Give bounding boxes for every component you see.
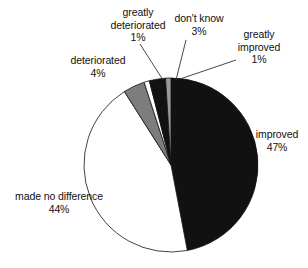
slice-label-deteriorated-line1: deteriorated <box>55 54 141 67</box>
slice-label-greatly-improved-line1: greatly <box>222 28 296 41</box>
slice-label-improved-percent: 47% <box>248 141 306 154</box>
slice-label-greatly-deteriorated-line2: deteriorated <box>100 19 176 32</box>
leader-line-greatly-deteriorated <box>140 44 163 80</box>
slice-label-dont-know-line1: don't know <box>166 12 232 25</box>
pie-chart: greatly deteriorated 1% don't know 3% gr… <box>0 0 308 268</box>
slice-label-made-no-difference: made no difference 44% <box>4 190 114 215</box>
slice-label-deteriorated-percent: 4% <box>55 67 141 80</box>
slice-label-greatly-deteriorated-percent: 1% <box>100 31 176 44</box>
slice-label-made-no-difference-line1: made no difference <box>4 190 114 203</box>
slice-label-improved: improved 47% <box>248 128 306 153</box>
slice-label-greatly-deteriorated-line1: greatly <box>100 6 176 19</box>
leader-line-dont-know <box>176 40 186 80</box>
slice-label-greatly-improved-percent: 1% <box>222 53 296 66</box>
pie-slice-improved[interactable] <box>171 78 258 250</box>
pie-slice-group <box>84 78 258 252</box>
slice-label-deteriorated: deteriorated 4% <box>55 54 141 79</box>
slice-label-improved-line1: improved <box>248 128 306 141</box>
slice-label-greatly-improved-line2: improved <box>222 41 296 54</box>
slice-label-greatly-improved: greatly improved 1% <box>222 28 296 66</box>
slice-label-made-no-difference-percent: 44% <box>4 203 114 216</box>
slice-label-greatly-deteriorated: greatly deteriorated 1% <box>100 6 176 44</box>
